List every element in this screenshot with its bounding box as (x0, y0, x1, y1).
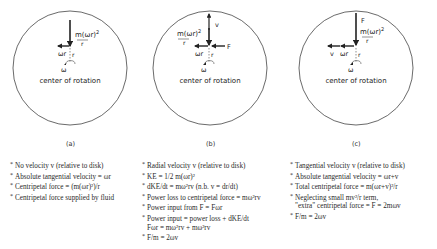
panel-a-diagram: m(ωr)2 r ωr r ω center of rotation (13, 11, 127, 125)
caption-a: (a) (66, 140, 75, 148)
omega-label-c: ω (348, 66, 353, 74)
notes-a: No velocity v (relative to disk) Absolut… (10, 161, 114, 203)
disk-b (153, 11, 267, 125)
note-c-3: Total centripetal force = m(ωr+v)²/r (290, 182, 405, 193)
tangential-label-b: ωr (195, 50, 203, 58)
note-a-1: No velocity v (relative to disk) (10, 161, 114, 172)
center-label-c: center of rotation (325, 77, 386, 85)
omega-label-a: ω (61, 66, 66, 74)
tangential-label-c: ωr (340, 50, 348, 58)
note-a-3: Centripetal force = (m(ωr)²)/r (10, 182, 114, 193)
note-c-5: "extra" centripetal force = F = 2mωv (290, 201, 405, 212)
radius-label-c: r (358, 51, 361, 58)
omega-arrow-a (64, 63, 66, 65)
rotation-arc-b (205, 61, 214, 64)
force-label-c: m(ωr) (360, 28, 381, 36)
omega-label-b: ω (201, 66, 206, 74)
note-b-4: Power loss to centripetal force = mω²rv (142, 193, 261, 204)
force-denominator-b: r (183, 39, 186, 46)
applied-force-label-c: F (361, 17, 365, 25)
radius-label-a: r (72, 51, 75, 58)
applied-force-label-b: F (227, 43, 231, 51)
note-b-5: Power input from F = Fωr (142, 203, 261, 214)
note-b-3: dKE/dt = mω²rv (n.b. v = dr/dt) (142, 182, 261, 193)
radial-velocity-label-b: v (215, 21, 219, 29)
note-a-4: Centripetal force supplied by fluid (10, 193, 114, 204)
center-label-b: center of rotation (179, 77, 240, 85)
force-denominator-a: r (81, 40, 84, 47)
note-c-1: Tangential velocity v (relative to disk) (290, 161, 405, 172)
caption-b: (b) (206, 140, 215, 148)
omega-arrow-b (203, 62, 206, 65)
force-label-a: m(ωr) (75, 31, 96, 39)
center-label-a: center of rotation (39, 77, 100, 85)
panel-c-diagram: F m(ωr)2 r v ωr r ω center of rotation (299, 11, 413, 125)
note-c-6: F/m = 2ωv (290, 212, 405, 223)
note-b-8: F/m = 2ωv (142, 233, 261, 244)
svg-text:m(ωr)2: m(ωr)2 (360, 26, 384, 36)
rotation-arc-c (352, 61, 361, 64)
notes-c: Tangential velocity v (relative to disk)… (290, 161, 405, 223)
radius-label-b: r (211, 51, 214, 58)
svg-text:m(ωr)2: m(ωr)2 (75, 29, 99, 39)
svg-text:m(ωr)2: m(ωr)2 (177, 28, 201, 38)
tangential-label-a: ωr (58, 50, 66, 58)
note-c-2: Absolute tangential velocity = ωr+v (290, 172, 405, 183)
note-b-1: Radial velocity v (relative to disk) (142, 161, 261, 172)
force-denominator-c: r (366, 37, 369, 44)
note-a-2: Absolute tangential velocity = ωr (10, 172, 114, 183)
rotation-diagrams: m(ωr)2 r ωr r ω center of rotation v F m… (0, 0, 437, 160)
note-b-2: KE = 1/2 m(ωr)² (142, 172, 261, 183)
force-label-b: m(ωr) (177, 30, 198, 38)
panel-b-diagram: v F m(ωr)2 r ωr r ω center of rotation (153, 11, 267, 125)
caption-c: (c) (352, 140, 361, 148)
note-b-7: Fωr = mω²rv + mω²rv (142, 223, 261, 234)
notes-b: Radial velocity v (relative to disk) KE … (142, 161, 261, 244)
relative-velocity-label-c: v (330, 50, 334, 58)
rotation-arc-a (66, 61, 75, 64)
